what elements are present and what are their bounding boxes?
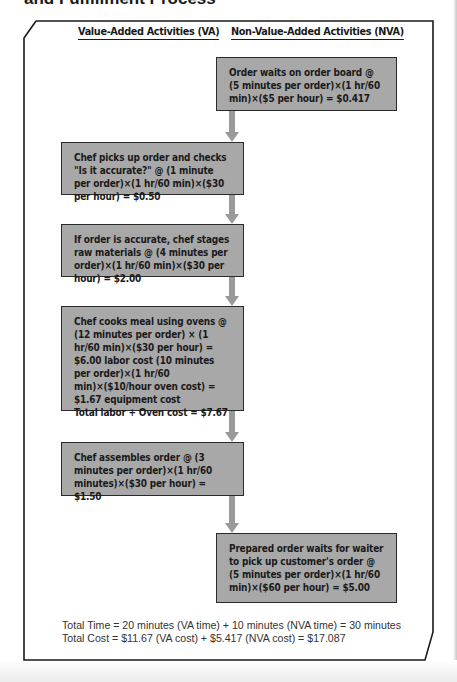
step-text: Prepared order waits for waiter to pick …	[229, 542, 386, 594]
totals-summary: Total Time = 20 minutes (VA time) + 10 m…	[62, 619, 401, 645]
step-text: Chef picks up order and checks "Is it ac…	[74, 151, 233, 203]
step-box-chef-checks: Chef picks up order and checks "Is it ac…	[61, 142, 244, 195]
column-header-nva: Non-Value-Added Activities (NVA)	[231, 25, 404, 40]
column-header-va: Value-Added Activities (VA)	[78, 25, 219, 40]
flow-arrow-shaft	[229, 496, 235, 526]
flow-arrow-down-icon	[225, 296, 239, 306]
step-box-chef-assembles: Chef assembles order @ (3 minutes per or…	[61, 442, 244, 496]
flow-arrow-down-icon	[225, 214, 239, 224]
total-cost: Total Cost = $11.67 (VA cost) + $5.417 (…	[62, 632, 401, 645]
step-total: Total labor + Oven cost = $7.67	[74, 406, 233, 419]
step-text: Order waits on order board @ (5 minutes …	[229, 66, 386, 105]
step-text: Chef assembles order @ (3 minutes per or…	[74, 451, 233, 503]
flow-arrow-down-icon	[225, 132, 239, 142]
step-text: Chef cooks meal using ovens @ (12 minute…	[74, 315, 233, 406]
flow-arrow-down-icon	[225, 432, 239, 442]
step-text: If order is accurate, chef stages raw ma…	[74, 233, 233, 285]
step-box-chef-stages: If order is accurate, chef stages raw ma…	[61, 224, 244, 277]
step-box-order-waits: Order waits on order board @ (5 minutes …	[216, 57, 397, 111]
flow-arrow-down-icon	[225, 523, 239, 533]
step-box-chef-cooks: Chef cooks meal using ovens @ (12 minute…	[61, 306, 244, 411]
total-time: Total Time = 20 minutes (VA time) + 10 m…	[62, 619, 401, 632]
step-box-order-waits-waiter: Prepared order waits for waiter to pick …	[216, 533, 397, 603]
